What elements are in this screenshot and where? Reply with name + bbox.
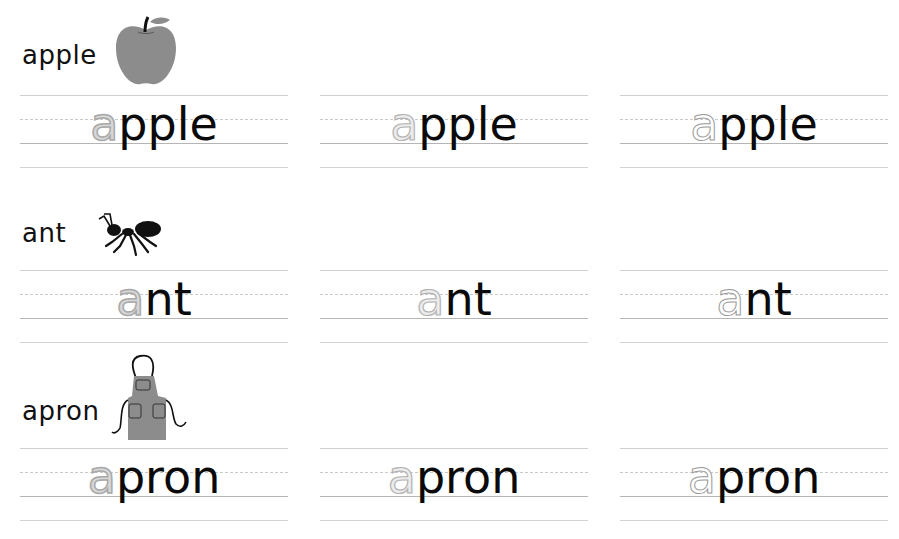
word-rest: pron bbox=[416, 450, 520, 504]
descender-line bbox=[620, 342, 888, 343]
trace-word: apron bbox=[620, 454, 888, 500]
word-rest: pron bbox=[116, 450, 220, 504]
trace-word: ant bbox=[320, 276, 588, 322]
trace-letter: a bbox=[388, 454, 416, 500]
ant-icon bbox=[96, 208, 166, 258]
word-label-apron: apron bbox=[22, 396, 99, 426]
apple-icon bbox=[112, 14, 180, 88]
tracing-cell-apron-3[interactable]: apron bbox=[620, 448, 888, 522]
trace-letter: a bbox=[90, 101, 118, 147]
trace-word: apron bbox=[320, 454, 588, 500]
trace-word: apple bbox=[620, 101, 888, 147]
descender-line bbox=[620, 167, 888, 168]
descender-line bbox=[620, 520, 888, 521]
descender-line bbox=[20, 167, 288, 168]
descender-line bbox=[20, 342, 288, 343]
word-rest: pple bbox=[118, 97, 217, 151]
trace-word: apron bbox=[20, 454, 288, 500]
word-rest: pron bbox=[716, 450, 820, 504]
top-line bbox=[620, 448, 888, 449]
tracing-cell-apple-3[interactable]: apple bbox=[620, 95, 888, 169]
word-rest: nt bbox=[745, 272, 792, 326]
trace-letter: a bbox=[116, 276, 144, 322]
tracing-cell-ant-3[interactable]: ant bbox=[620, 270, 888, 344]
tracing-cell-ant-2[interactable]: ant bbox=[320, 270, 588, 344]
word-label-apple: apple bbox=[22, 40, 97, 70]
trace-letter: a bbox=[88, 454, 116, 500]
trace-word: ant bbox=[620, 276, 888, 322]
tracing-cell-apple-1[interactable]: apple bbox=[20, 95, 288, 169]
top-line bbox=[320, 95, 588, 96]
top-line bbox=[20, 270, 288, 271]
top-line bbox=[20, 95, 288, 96]
trace-letter: a bbox=[416, 276, 444, 322]
descender-line bbox=[320, 342, 588, 343]
trace-word: apple bbox=[320, 101, 588, 147]
trace-letter: a bbox=[716, 276, 744, 322]
trace-word: ant bbox=[20, 276, 288, 322]
apron-icon bbox=[110, 354, 190, 440]
word-rest: nt bbox=[445, 272, 492, 326]
descender-line bbox=[320, 167, 588, 168]
word-rest: pple bbox=[418, 97, 517, 151]
trace-word: apple bbox=[20, 101, 288, 147]
tracing-cell-apron-1[interactable]: apron bbox=[20, 448, 288, 522]
trace-letter: a bbox=[390, 101, 418, 147]
tracing-cell-apron-2[interactable]: apron bbox=[320, 448, 588, 522]
descender-line bbox=[320, 520, 588, 521]
top-line bbox=[620, 95, 888, 96]
top-line bbox=[320, 448, 588, 449]
trace-letter: a bbox=[690, 101, 718, 147]
top-line bbox=[20, 448, 288, 449]
trace-letter: a bbox=[688, 454, 716, 500]
word-label-ant: ant bbox=[22, 218, 66, 248]
word-rest: nt bbox=[145, 272, 192, 326]
top-line bbox=[620, 270, 888, 271]
descender-line bbox=[20, 520, 288, 521]
word-rest: pple bbox=[718, 97, 817, 151]
tracing-cell-apple-2[interactable]: apple bbox=[320, 95, 588, 169]
tracing-cell-ant-1[interactable]: ant bbox=[20, 270, 288, 344]
top-line bbox=[320, 270, 588, 271]
